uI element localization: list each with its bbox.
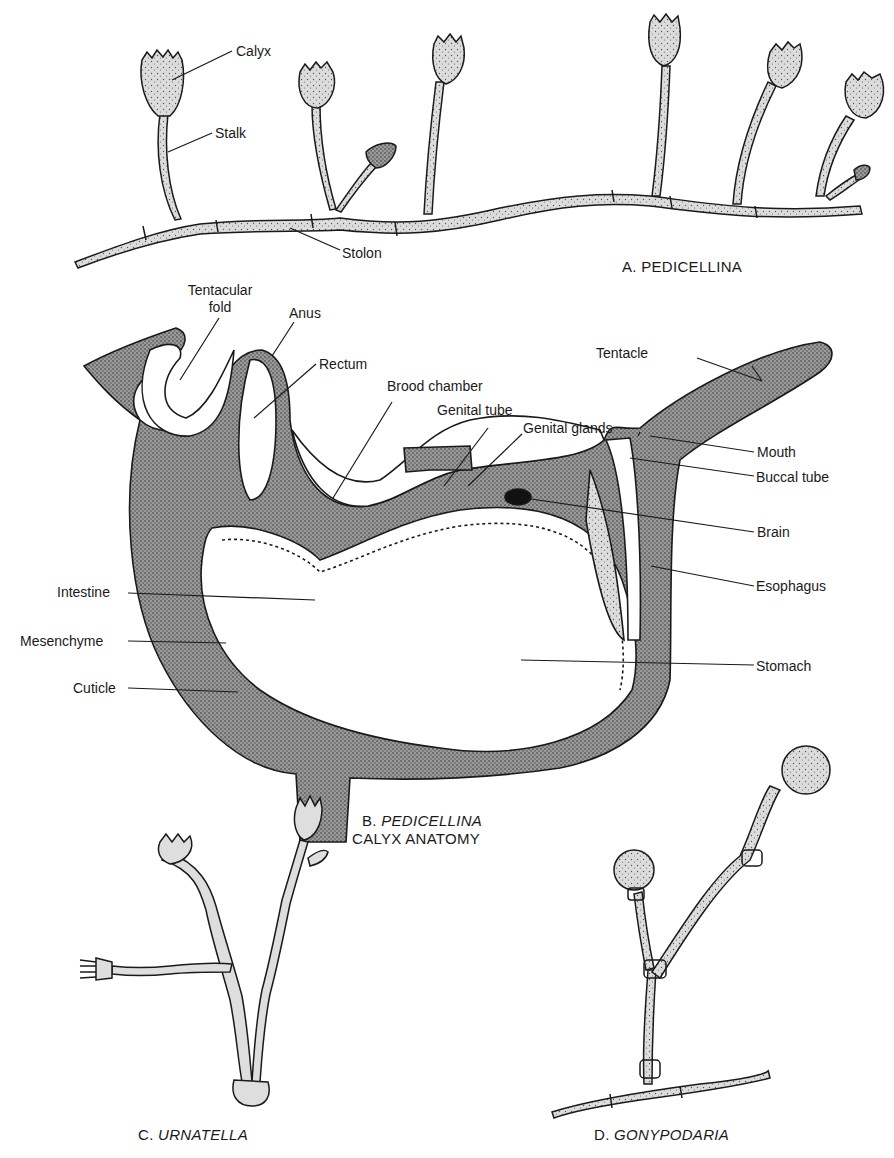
panel-c-urnatella-drawing	[80, 796, 328, 1106]
label-stolon: Stolon	[342, 245, 382, 261]
label-cuticle: Cuticle	[73, 680, 116, 696]
caption-panel-c-prefix: C.	[138, 1126, 154, 1143]
label-mesenchyme: Mesenchyme	[20, 633, 103, 649]
label-genital-tube: Genital tube	[437, 402, 513, 418]
label-anus: Anus	[289, 305, 321, 321]
genital-tube	[404, 446, 472, 472]
caption-panel-c: C. URNATELLA	[138, 1126, 248, 1144]
label-intestine: Intestine	[57, 584, 110, 600]
caption-panel-a: A. PEDICELLINA	[622, 258, 742, 276]
label-stalk: Stalk	[215, 125, 246, 141]
label-tentacular-fold-line2: fold	[178, 299, 262, 315]
caption-panel-d-prefix: D.	[594, 1126, 610, 1143]
label-genital-glands: Genital glands	[523, 420, 613, 436]
label-tentacular-fold-line1: Tentacular	[178, 282, 262, 298]
caption-panel-b-prefix: B.	[362, 812, 377, 829]
label-tentacle: Tentacle	[596, 345, 648, 361]
label-brood-chamber: Brood chamber	[387, 378, 483, 394]
label-calyx: Calyx	[236, 43, 271, 59]
label-rectum: Rectum	[319, 356, 367, 372]
caption-panel-c-genus: URNATELLA	[158, 1126, 248, 1143]
label-buccal-tube: Buccal tube	[756, 469, 829, 485]
label-brain: Brain	[757, 524, 790, 540]
caption-panel-b-genus: PEDICELLINA	[381, 812, 482, 829]
label-stomach: Stomach	[756, 658, 811, 674]
caption-panel-b-line2: CALYX ANATOMY	[352, 830, 480, 848]
label-esophagus: Esophagus	[756, 578, 826, 594]
caption-panel-d-genus: GONYPODARIA	[614, 1126, 729, 1143]
caption-panel-d: D. GONYPODARIA	[594, 1126, 729, 1144]
panel-d-gonypodaria-drawing	[552, 746, 830, 1118]
label-mouth: Mouth	[757, 444, 796, 460]
stolon	[75, 195, 862, 269]
panel-a-pedicellina-drawing	[75, 14, 884, 268]
caption-panel-b-line1: B. PEDICELLINA	[362, 812, 482, 830]
